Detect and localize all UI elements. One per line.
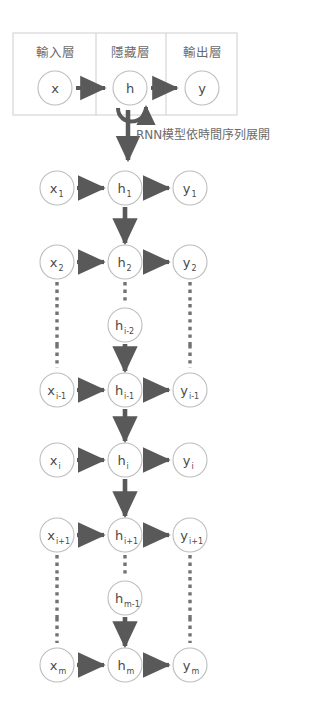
timestep-i-plus-1-node-h-label: h — [115, 528, 123, 543]
timestep-i-plus-1-node-y-label: y — [180, 528, 188, 543]
timestep-i-minus-1-node-x-subscript: i-1 — [56, 392, 66, 401]
timestep-m-node-h-subscript: m — [127, 667, 135, 676]
timestep-m-node-x-subscript: m — [59, 667, 67, 676]
timestep-i-plus-1-node-y-subscript: i+1 — [189, 537, 203, 546]
timestep-i-node-y-label: y — [183, 453, 191, 468]
unfold-caption: RNN模型依時間序列展開 — [136, 127, 270, 142]
timestep-i-node-h-label: h — [117, 453, 125, 468]
timestep-1-node-y: y1 — [173, 171, 207, 205]
timestep-m-minus-1-node-h: hm-1 — [108, 581, 142, 615]
timestep-1-node-x-subscript: 1 — [59, 190, 64, 199]
timestep-i-minus-1-node-y-label: y — [180, 383, 188, 398]
timestep-i-node-y-subscript: i — [192, 462, 194, 471]
panel-node-y-label: y — [198, 81, 206, 96]
timestep-i-minus-1-node-y-subscript: i-1 — [189, 392, 199, 401]
timestep-m-node-y: ym — [173, 648, 207, 682]
timestep-i-minus-1-node-h-subscript: i-1 — [124, 392, 134, 401]
header-panel: 輸入層 隱藏層 輸出層 x h y — [13, 33, 237, 121]
timestep-m-node-x: xm — [40, 648, 74, 682]
row-timestep-i-plus-1: xi+1hi+1yi+1 — [40, 518, 207, 576]
row-timestep-m: xmhmym — [40, 648, 207, 682]
timestep-i-node-x: xi — [40, 443, 74, 477]
timestep-2-node-h: h2 — [108, 245, 142, 279]
timestep-i-node-x-label: x — [50, 453, 58, 468]
timestep-i-node-y: yi — [173, 443, 207, 477]
timestep-1-node-y-subscript: 1 — [192, 190, 197, 199]
timestep-2-node-h-label: h — [117, 255, 125, 270]
timestep-i-minus-2-node-h: hi-2 — [108, 308, 142, 342]
timestep-i-minus-1-node-x-circle — [40, 373, 74, 407]
diagram-canvas: 輸入層 隱藏層 輸出層 x h y RNN模型依時間序列展開 x1h1y1x2h… — [0, 0, 323, 705]
timestep-i-plus-1-node-h-subscript: i+1 — [124, 537, 138, 546]
timestep-1-node-h: h1 — [108, 171, 142, 205]
timestep-i-minus-1-node-h-circle — [108, 373, 142, 407]
row-timestep-i: xihiyi — [40, 443, 207, 516]
timestep-2-node-x: x2 — [40, 245, 74, 279]
hidden-layer-label: 隱藏層 — [111, 45, 150, 60]
timestep-i-plus-1-node-h-circle — [108, 518, 142, 552]
timestep-i-plus-1-node-x: xi+1 — [40, 518, 74, 552]
timestep-2-node-h-subscript: 2 — [127, 264, 132, 273]
timestep-i-plus-1-node-x-circle — [40, 518, 74, 552]
timestep-i-plus-1-node-y: yi+1 — [173, 518, 207, 552]
input-layer-label: 輸入層 — [36, 45, 75, 60]
timestep-m-node-y-subscript: m — [192, 667, 200, 676]
timestep-m-node-y-label: y — [183, 658, 191, 673]
unfold-connector: RNN模型依時間序列展開 — [128, 110, 270, 160]
timestep-i-node-h: hi — [108, 443, 142, 477]
output-layer-label: 輸出層 — [183, 45, 222, 60]
timestep-i-node-h-subscript: i — [127, 462, 129, 471]
timestep-i-plus-1-node-x-label: x — [47, 528, 55, 543]
timestep-m-minus-1-node-h-label: h — [115, 591, 123, 606]
row-timestep-2: x2h2y2 — [40, 245, 207, 303]
panel-node-x-label: x — [51, 81, 59, 96]
timestep-1-node-x: x1 — [40, 171, 74, 205]
timestep-1-node-y-label: y — [183, 181, 191, 196]
timestep-m-minus-1-node-h-subscript: m-1 — [124, 600, 140, 609]
timestep-i-minus-2-node-h-label: h — [115, 318, 123, 333]
timestep-i-node-x-subscript: i — [59, 462, 61, 471]
timestep-i-minus-1-node-y: yi-1 — [173, 373, 207, 407]
timestep-m-node-h: hm — [108, 648, 142, 682]
timestep-i-minus-1-node-h-label: h — [115, 383, 123, 398]
timestep-i-minus-1-node-y-circle — [173, 373, 207, 407]
row-timestep-i-minus-1: xi-1hi-1yi-1 — [40, 373, 207, 441]
row-timestep-m-minus-1: hm-1 — [57, 581, 190, 646]
timestep-m-node-x-label: x — [50, 658, 58, 673]
timestep-i-minus-1-node-x: xi-1 — [40, 373, 74, 407]
timestep-m-node-h-label: h — [117, 658, 125, 673]
timestep-m-minus-1-node-h-circle — [108, 581, 142, 615]
timestep-1-node-h-label: h — [117, 181, 125, 196]
timestep-i-minus-2-node-h-subscript: i-2 — [124, 327, 134, 336]
panel-node-h-label: h — [126, 81, 134, 96]
timestep-i-minus-1-node-h: hi-1 — [108, 373, 142, 407]
timestep-2-node-y-label: y — [183, 255, 191, 270]
timestep-rows: x1h1y1x2h2y2hi-2xi-1hi-1yi-1xihiyixi+1hi… — [40, 171, 207, 682]
timestep-1-node-x-label: x — [50, 181, 58, 196]
timestep-i-plus-1-node-h: hi+1 — [108, 518, 142, 552]
timestep-i-plus-1-node-x-subscript: i+1 — [56, 537, 70, 546]
rnn-unfold-diagram: 輸入層 隱藏層 輸出層 x h y RNN模型依時間序列展開 x1h1y1x2h… — [0, 0, 323, 705]
timestep-i-minus-1-node-x-label: x — [47, 383, 55, 398]
recurrent-self-loop-icon — [118, 107, 146, 121]
timestep-1-node-h-subscript: 1 — [127, 190, 132, 199]
timestep-i-plus-1-node-y-circle — [173, 518, 207, 552]
timestep-2-node-x-label: x — [50, 255, 58, 270]
timestep-2-node-x-subscript: 2 — [59, 264, 64, 273]
timestep-2-node-y-subscript: 2 — [192, 264, 197, 273]
row-timestep-i-minus-2: hi-2 — [57, 308, 190, 371]
timestep-i-minus-2-node-h-circle — [108, 308, 142, 342]
timestep-2-node-y: y2 — [173, 245, 207, 279]
row-timestep-1: x1h1y1 — [40, 171, 207, 243]
